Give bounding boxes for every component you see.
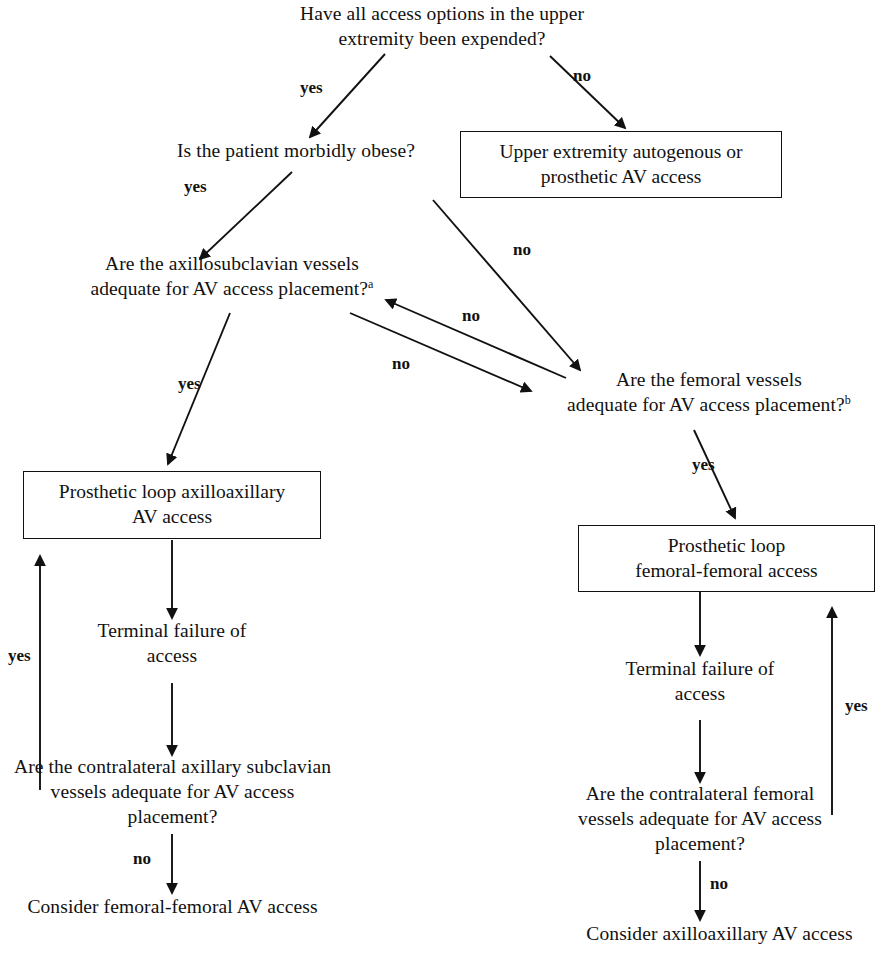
node-box-prosthetic-loop-femoral-femoral: Prosthetic loop femoral-femoral access <box>578 525 875 592</box>
node-line: vessels adequate for AV access <box>555 807 845 832</box>
edge-label-femoral-yes: yes <box>692 455 715 475</box>
node-line: Are the axillosubclavian vessels <box>72 252 392 277</box>
node-question-axillosubclavian: Are the axillosubclavian vessels adequat… <box>72 252 392 302</box>
edge-label-obese-no: no <box>513 240 531 260</box>
edge-obese-yes <box>200 172 292 259</box>
node-line: Have all access options in the upper <box>264 2 620 27</box>
edge-label-right-loop-yes: yes <box>845 696 868 716</box>
node-line: Upper extremity autogenous or <box>499 140 742 165</box>
node-line: extremity been expended? <box>264 27 620 52</box>
node-line: Are the contralateral femoral <box>555 782 845 807</box>
node-line: Consider femoral-femoral AV access <box>0 895 345 920</box>
node-line: adequate for AV access placement?a <box>72 277 392 302</box>
node-line: placement? <box>555 832 845 857</box>
edge-label-top-yes: yes <box>300 78 323 98</box>
edge-label-axillo-yes: yes <box>178 374 201 394</box>
node-question-femoral-vessels: Are the femoral vessels adequate for AV … <box>542 368 876 418</box>
footnote-marker-a: a <box>368 276 373 290</box>
node-question-contralateral-femoral: Are the contralateral femoral vessels ad… <box>555 782 845 857</box>
node-line: femoral-femoral access <box>635 559 817 584</box>
node-line: prosthetic AV access <box>499 165 742 190</box>
node-line: Are the contralateral axillary subclavia… <box>0 755 345 780</box>
flowchart-canvas: Have all access options in the upper ext… <box>0 0 884 958</box>
edge-label-right-contra-no: no <box>710 874 728 894</box>
node-line-text: adequate for AV access placement? <box>90 278 368 299</box>
node-line: Are the femoral vessels <box>542 368 876 393</box>
node-line: AV access <box>59 505 285 530</box>
node-question-contralateral-axillary: Are the contralateral axillary subclavia… <box>0 755 345 830</box>
node-line-text: adequate for AV access placement? <box>567 394 845 415</box>
node-outcome-consider-axilloaxillary: Consider axilloaxillary AV access <box>555 922 884 947</box>
node-line: Terminal failure of <box>72 619 272 644</box>
node-line: Consider axilloaxillary AV access <box>555 922 884 947</box>
edge-label-left-loop-yes: yes <box>8 646 31 666</box>
edge-label-left-contra-no: no <box>133 849 151 869</box>
edge-obese-no <box>433 200 580 370</box>
node-terminal-failure-right: Terminal failure of access <box>600 657 800 707</box>
node-line: access <box>72 644 272 669</box>
node-box-upper-extremity-access: Upper extremity autogenous or prosthetic… <box>460 131 782 198</box>
node-line: placement? <box>0 805 345 830</box>
node-line: adequate for AV access placement?b <box>542 393 876 418</box>
node-line: Prosthetic loop <box>635 534 817 559</box>
node-line: Terminal failure of <box>600 657 800 682</box>
node-line: Is the patient morbidly obese? <box>146 139 446 164</box>
node-question-upper-expended: Have all access options in the upper ext… <box>264 2 620 52</box>
node-terminal-failure-left: Terminal failure of access <box>72 619 272 669</box>
edge-label-top-no: no <box>573 66 591 86</box>
node-line: vessels adequate for AV access <box>0 780 345 805</box>
edge-label-axillo-no-to-femoral: no <box>392 354 410 374</box>
node-line: access <box>600 682 800 707</box>
footnote-marker-b: b <box>845 392 851 406</box>
node-outcome-consider-femoral-femoral: Consider femoral-femoral AV access <box>0 895 345 920</box>
edge-axillo-no-to-femoral <box>350 313 531 391</box>
node-line: Prosthetic loop axilloaxillary <box>59 480 285 505</box>
node-question-morbidly-obese: Is the patient morbidly obese? <box>146 139 446 164</box>
edge-label-femoral-no-to-axillo: no <box>462 306 480 326</box>
node-box-prosthetic-loop-axilloaxillary: Prosthetic loop axilloaxillary AV access <box>23 471 321 539</box>
edge-label-obese-yes: yes <box>184 177 207 197</box>
